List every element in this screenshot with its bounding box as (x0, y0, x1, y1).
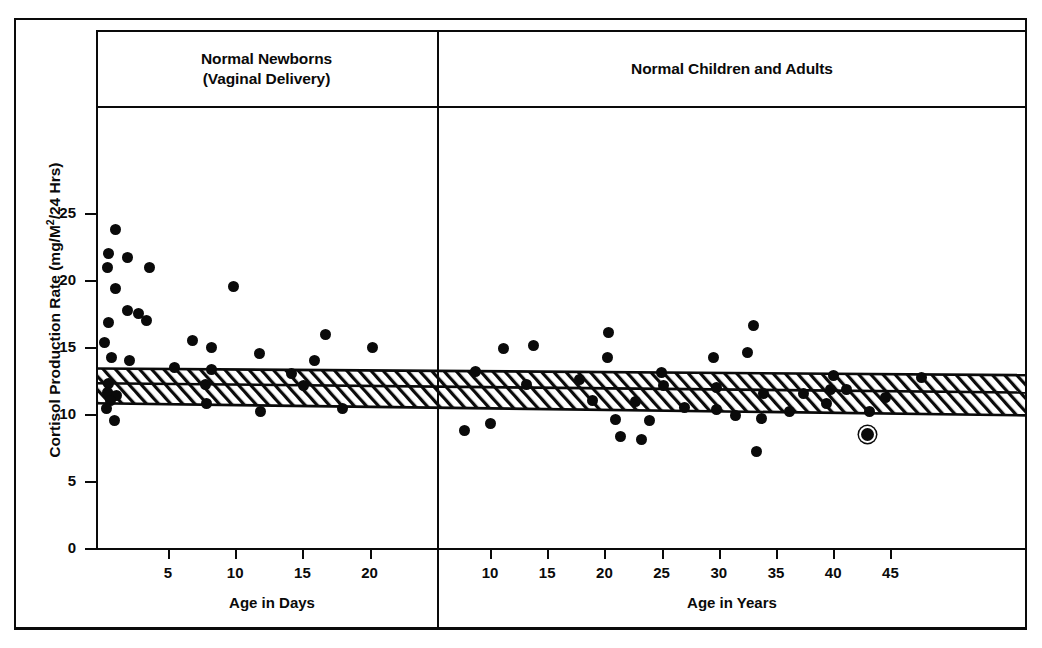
panel-title-children-adults-text: Normal Children and Adults (631, 59, 833, 79)
panel-title-newborns: Normal Newborns (Vaginal Delivery) (96, 30, 437, 108)
data-point (470, 366, 481, 377)
x-axis-tick (604, 548, 606, 559)
data-point (309, 355, 320, 366)
plot-area (96, 108, 1027, 548)
data-point (656, 367, 667, 378)
data-point (124, 355, 135, 366)
x-axis-tick-label: 45 (870, 564, 910, 581)
data-point (110, 224, 121, 235)
y-axis-tick-label: 15 (42, 338, 76, 355)
data-point (498, 343, 509, 354)
x-axis-tick (235, 548, 237, 559)
data-point (821, 398, 832, 409)
x-axis-tick (833, 548, 835, 559)
x-axis-tick-label: 15 (282, 564, 322, 581)
data-point (828, 370, 839, 381)
data-point (187, 335, 198, 346)
figure-cortisol-production-rate: Normal Newborns (Vaginal Delivery) Norma… (0, 0, 1042, 648)
y-axis-tick (85, 280, 96, 282)
data-point (103, 248, 114, 259)
data-point (751, 446, 762, 457)
data-point-highlighted (861, 428, 874, 441)
x-axis-tick (547, 548, 549, 559)
x-axis-tick-label: 35 (756, 564, 796, 581)
panel-title-children-adults: Normal Children and Adults (437, 30, 1027, 108)
x-axis-tick-label: 10 (215, 564, 255, 581)
x-axis-tick-label: 25 (642, 564, 682, 581)
data-point (748, 320, 759, 331)
data-point (122, 252, 133, 263)
x-axis-tick (719, 548, 721, 559)
y-axis-tick-label: 20 (42, 271, 76, 288)
x-axis-tick (370, 548, 372, 559)
data-point (756, 413, 767, 424)
data-point (101, 403, 112, 414)
data-point (574, 374, 585, 385)
y-axis-line (96, 108, 98, 548)
data-point (459, 425, 470, 436)
x-axis-tick (302, 548, 304, 559)
data-point (141, 315, 152, 326)
x-axis-tick-label: 20 (350, 564, 390, 581)
x-axis-title-days: Age in Days (172, 594, 372, 611)
x-label-strip-bottom-rule (14, 628, 1027, 630)
x-axis-tick (168, 548, 170, 559)
data-point (485, 418, 496, 429)
data-point (206, 342, 217, 353)
y-axis-tick (85, 548, 96, 550)
x-axis-tick (662, 548, 664, 559)
panel-divider (437, 30, 439, 628)
y-axis-tick (85, 481, 96, 483)
x-axis-title-years: Age in Years (632, 594, 832, 611)
data-point (636, 434, 647, 445)
data-point (206, 364, 217, 375)
y-axis-tick-label: 10 (42, 405, 76, 422)
x-axis-tick (776, 548, 778, 559)
x-axis-tick-label: 10 (470, 564, 510, 581)
y-axis-tick-label: 0 (42, 539, 76, 556)
x-axis-tick (890, 548, 892, 559)
data-point (784, 406, 795, 417)
data-point (367, 342, 378, 353)
panel-title-newborns-line2: (Vaginal Delivery) (201, 69, 332, 89)
x-axis-tick (490, 548, 492, 559)
data-point (110, 283, 121, 294)
y-axis-tick (85, 213, 96, 215)
y-axis-tick (85, 414, 96, 416)
x-axis-tick-label: 30 (699, 564, 739, 581)
data-point (711, 382, 722, 393)
data-point (644, 415, 655, 426)
panel-title-newborns-line1: Normal Newborns (201, 49, 332, 69)
data-point (254, 348, 265, 359)
x-axis-tick-label: 15 (527, 564, 567, 581)
data-point (742, 347, 753, 358)
data-point (255, 406, 266, 417)
y-axis-tick-label: 5 (42, 472, 76, 489)
data-point (708, 352, 719, 363)
data-point (169, 362, 180, 373)
y-axis-tick (85, 347, 96, 349)
y-axis-tick-label: 25 (42, 204, 76, 221)
x-axis-tick-label: 20 (584, 564, 624, 581)
y-axis-title: Cortisol Production Rate (mg/M2/24 Hrs) (44, 110, 64, 510)
x-axis-tick-label: 40 (813, 564, 853, 581)
data-point (679, 402, 690, 413)
data-point (109, 415, 120, 426)
x-axis-tick-label: 5 (148, 564, 188, 581)
